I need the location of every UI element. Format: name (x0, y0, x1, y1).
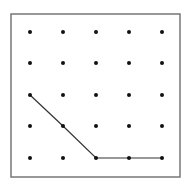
grid-dot (94, 124, 98, 128)
grid-dot (61, 30, 65, 34)
grid-dot (127, 156, 131, 160)
grid-dot (160, 124, 164, 128)
grid-dot (127, 124, 131, 128)
dot-grid-diagram (0, 0, 186, 181)
grid-dot (160, 93, 164, 97)
grid-dot (94, 30, 98, 34)
grid-dot (28, 61, 32, 65)
grid-dot (127, 61, 131, 65)
grid-dot (94, 93, 98, 97)
grid-dot (94, 61, 98, 65)
grid-dot (127, 30, 131, 34)
grid-dot (94, 156, 98, 160)
grid-dot (28, 93, 32, 97)
grid-dot (127, 93, 131, 97)
grid-dot (28, 30, 32, 34)
grid-dot (61, 93, 65, 97)
grid-dot (160, 30, 164, 34)
grid-dot (28, 124, 32, 128)
grid-dot (28, 156, 32, 160)
grid-dot (160, 61, 164, 65)
grid-dot (61, 156, 65, 160)
grid-dot (61, 61, 65, 65)
grid-dot (160, 156, 164, 160)
grid-dots (28, 30, 164, 160)
grid-dot (61, 124, 65, 128)
